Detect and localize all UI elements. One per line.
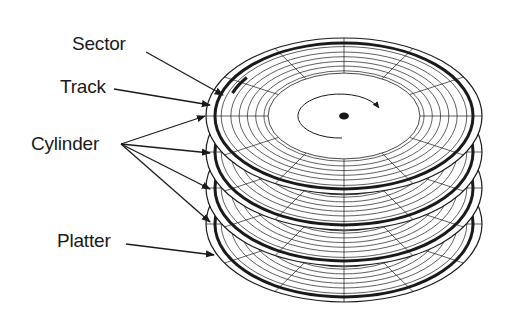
sector-label: Sector xyxy=(72,34,126,53)
platter-label: Platter xyxy=(57,231,111,250)
sector-arrow xyxy=(146,52,223,95)
cylinder-arrow-2 xyxy=(121,144,210,153)
cylinder-arrow-4 xyxy=(121,144,210,222)
track-arrow xyxy=(114,89,210,105)
cylinder-arrow-1 xyxy=(121,116,205,144)
track-label: Track xyxy=(60,77,106,96)
platter-arrow xyxy=(126,244,214,255)
spindle-icon xyxy=(339,113,349,120)
platter-stack xyxy=(206,38,482,302)
cylinder-label: Cylinder xyxy=(31,134,99,153)
